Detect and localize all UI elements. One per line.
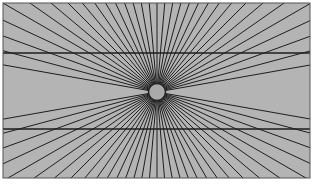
illusion-canvas xyxy=(0,0,314,184)
hering-illusion-figure: Hering illusion xyxy=(0,0,314,184)
center-circle xyxy=(149,84,166,101)
